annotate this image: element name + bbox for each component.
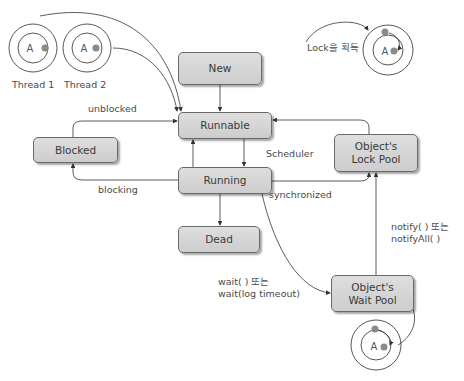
state-blocked: Blocked — [33, 137, 118, 163]
state-lock-pool: Object's Lock Pool — [334, 134, 418, 172]
notify-label: notify( ) 또는 notifyAll( ) — [391, 221, 449, 245]
svg-text:A: A — [371, 341, 378, 352]
synchronized-label: synchronized — [269, 189, 332, 201]
state-dead: Dead — [178, 226, 260, 253]
state-wait-pool: Object's Wait Pool — [331, 275, 414, 312]
thread1-icon: A — [9, 24, 57, 72]
state-new: New — [178, 52, 262, 85]
scheduler-label: Scheduler — [266, 148, 314, 160]
state-runnable: Runnable — [178, 112, 272, 139]
wait-label: wait( ) 또는 wait(log timeout) — [218, 276, 300, 300]
thread2-label: Thread 2 — [64, 79, 106, 91]
thread1-label: Thread 1 — [12, 79, 54, 91]
blocking-label: blocking — [98, 184, 138, 196]
unblocked-label: unblocked — [88, 103, 137, 115]
svg-text:A: A — [382, 46, 389, 57]
state-running: Running — [178, 167, 272, 194]
svg-text:A: A — [81, 43, 88, 54]
svg-text:A: A — [27, 43, 34, 54]
lock-acquire-label: Lock을 획득 — [307, 42, 359, 54]
thread2-icon: A — [63, 24, 111, 72]
